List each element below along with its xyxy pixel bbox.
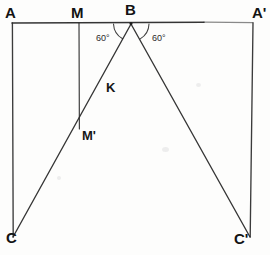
point-label-K: K [106, 81, 115, 94]
figure-canvas [0, 0, 270, 255]
vertex-label-B: B [125, 2, 136, 17]
segment-left-edge-A-to-C [12, 23, 13, 237]
point-label-M-prime: M' [82, 129, 96, 142]
angle-label-right: 60° [152, 34, 166, 43]
vertex-label-C: C [6, 230, 17, 245]
segment-right-edge-Aprime-to-Cprime [250, 23, 253, 237]
vertex-label-A: A [5, 5, 16, 20]
angle-label-left: 60° [96, 34, 110, 43]
vertex-label-A-prime: A' [252, 5, 266, 20]
vertex-dot-B [130, 22, 133, 25]
segment-top-edge-A-to-Aprime [12, 22, 204, 23]
segment-ray-B-to-Cprime [131, 24, 250, 237]
segment-ray-B-to-C [13, 24, 131, 237]
angle-arc-right-60 [140, 24, 149, 39]
geometry-figure: A A' B M C C' M' K 60° 60° [0, 0, 270, 255]
vertex-label-C-prime: C' [234, 231, 248, 246]
angle-arc-left-60 [114, 24, 123, 39]
vertex-label-M: M [71, 5, 84, 20]
